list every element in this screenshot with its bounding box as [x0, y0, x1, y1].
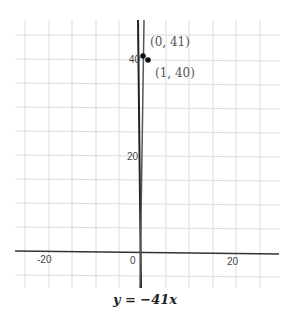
x-tick-neg20: -20: [37, 254, 52, 265]
x-tick-20: 20: [227, 256, 239, 267]
point-label-1-40: (1, 40): [155, 66, 195, 80]
point-label-0-41: (0, 41): [150, 35, 190, 49]
y-tick-20: 20: [127, 151, 139, 162]
point-1-40[interactable]: [145, 57, 151, 63]
x-tick-0: 0: [130, 255, 136, 266]
graph-canvas: -20 0 20 20 40 (0, 41) (1, 40): [0, 0, 290, 321]
y-tick-40: 40: [129, 54, 141, 65]
x-axis: [15, 251, 279, 254]
point-0-41[interactable]: [140, 53, 146, 59]
equation-caption: y = −41x: [0, 292, 290, 307]
